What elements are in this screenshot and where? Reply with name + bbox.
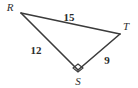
- side-length-rs: 12: [31, 44, 43, 56]
- side-length-st: 9: [104, 54, 110, 66]
- geometry-figure: R T S 15 12 9: [0, 0, 138, 88]
- vertex-label-s: S: [75, 75, 81, 87]
- vertex-label-r: R: [6, 1, 14, 13]
- vertex-label-t: T: [123, 20, 130, 32]
- side-length-rt: 15: [64, 11, 76, 23]
- triangle-canvas: R T S 15 12 9: [0, 0, 138, 88]
- side-line-st: [78, 34, 120, 70]
